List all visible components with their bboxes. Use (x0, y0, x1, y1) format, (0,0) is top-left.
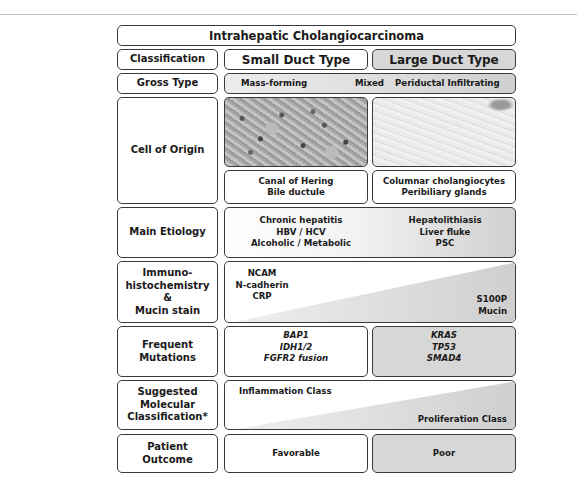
label-text: Frequent (142, 339, 193, 352)
marker-s100p: S100P (477, 294, 507, 306)
label-text: Cell of Origin (131, 144, 205, 157)
inflammation-class: Inflammation Class (239, 386, 332, 398)
etiology-item: Liver fluke (420, 227, 471, 239)
label-text: Patient (147, 441, 188, 454)
small-duct-type-header: Small Duct Type (224, 49, 368, 70)
label-text: Gross Type (137, 77, 199, 90)
outcome-small: Favorable (224, 434, 368, 473)
etiology-item: Hepatolithiasis (408, 215, 481, 227)
mutation-tp53: TP53 (432, 342, 456, 354)
large-duct-label: Large Duct Type (389, 53, 498, 67)
row-label-classification: Classification (117, 49, 218, 70)
label-text: Classification (130, 53, 205, 66)
etiology-small: Chronic hepatitis HBV / HCV Alcoholic / … (231, 215, 371, 250)
mutation-kras: KRAS (431, 330, 457, 342)
gross-type-spectrum: Mass-forming Mixed Periductal Infiltrati… (224, 73, 516, 94)
row-label-frequent-mutations: Frequent Mutations (117, 326, 218, 377)
label-text: Suggested (137, 386, 197, 399)
cell-of-origin-large: Columnar cholangiocytes Peribiliary glan… (372, 170, 516, 204)
row-label-cell-of-origin: Cell of Origin (117, 97, 218, 204)
etiology-item: Alcoholic / Metabolic (251, 238, 351, 250)
histology-image-large-duct (372, 97, 516, 167)
label-text: Mucin stain (135, 305, 200, 318)
etiology-item: HBV / HCV (276, 227, 325, 239)
row-label-molecular-classification: Suggested Molecular Classification* (117, 380, 218, 430)
etiology-item: PSC (436, 238, 455, 250)
origin-columnar-cholangiocytes: Columnar cholangiocytes (383, 176, 505, 188)
label-text: Outcome (142, 454, 192, 467)
marker-n-cadherin: N-cadherin (235, 280, 288, 292)
proliferation-class: Proliferation Class (418, 414, 507, 426)
mutation-fgfr2-fusion: FGFR2 fusion (264, 353, 328, 365)
row-label-patient-outcome: Patient Outcome (117, 434, 218, 473)
immuno-large-markers: S100P Mucin (477, 294, 507, 317)
row-label-gross-type: Gross Type (117, 73, 218, 94)
marker-ncam: NCAM (248, 268, 277, 280)
molecular-spectrum: Inflammation Class Proliferation Class (224, 380, 516, 430)
label-text: Molecular (140, 399, 195, 412)
outcome-poor: Poor (433, 448, 455, 460)
large-duct-type-header: Large Duct Type (372, 49, 516, 70)
row-label-immunohistochemistry: Immuno- histochemistry & Mucin stain (117, 261, 218, 323)
outcome-large: Poor (372, 434, 516, 473)
label-text: Mutations (139, 352, 196, 365)
gross-mixed: Mixed (355, 78, 384, 90)
label-text: & (163, 292, 172, 305)
small-duct-label: Small Duct Type (242, 53, 351, 67)
marker-crp: CRP (252, 291, 271, 303)
histology-image-small-duct (224, 97, 368, 167)
mutation-smad4: SMAD4 (427, 353, 462, 365)
row-label-main-etiology: Main Etiology (117, 207, 218, 258)
label-text: Immuno- (143, 267, 193, 280)
origin-canal-of-hering: Canal of Hering (258, 176, 333, 188)
main-etiology-spectrum: Chronic hepatitis HBV / HCV Alcoholic / … (224, 207, 516, 258)
immuno-spectrum: NCAM N-cadherin CRP S100P Mucin (224, 261, 516, 323)
origin-bile-ductule: Bile ductule (267, 187, 325, 199)
immuno-small-markers: NCAM N-cadherin CRP (231, 268, 293, 303)
gross-mass-forming: Mass-forming (241, 78, 307, 90)
cell-of-origin-small: Canal of Hering Bile ductule (224, 170, 368, 204)
mutation-idh1-2: IDH1/2 (280, 342, 313, 354)
title-text: Intrahepatic Cholangiocarcinoma (209, 29, 424, 43)
diagram-title: Intrahepatic Cholangiocarcinoma (117, 25, 516, 46)
label-text: histochemistry (125, 280, 209, 293)
origin-peribiliary-glands: Peribiliary glands (401, 187, 486, 199)
mutation-bap1: BAP1 (283, 330, 308, 342)
outcome-favorable: Favorable (272, 448, 320, 460)
label-text: Classification* (127, 411, 207, 424)
label-text: Main Etiology (129, 226, 206, 239)
gross-periductal-infiltrating: Periductal Infiltrating (395, 78, 500, 90)
marker-mucin: Mucin (478, 306, 507, 318)
mutations-large: KRAS TP53 SMAD4 (372, 326, 516, 377)
mutations-small: BAP1 IDH1/2 FGFR2 fusion (224, 326, 368, 377)
etiology-item: Chronic hepatitis (260, 215, 343, 227)
etiology-large: Hepatolithiasis Liver fluke PSC (375, 215, 515, 250)
top-divider-line (0, 14, 577, 15)
